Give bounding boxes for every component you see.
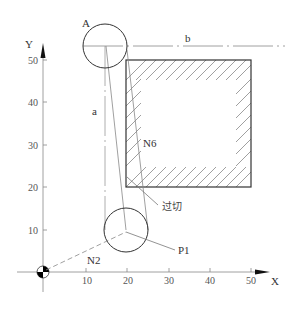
n2-dashed-line [46,232,126,270]
x-tick-10: 10 [82,275,92,286]
y-tick-10: 10 [28,225,38,236]
label-p1: P1 [178,244,190,256]
x-axis-arrow-icon [255,270,270,275]
y-axis-label: Y [25,38,33,50]
tool-path-line [106,46,126,230]
y-tick-20: 20 [28,182,38,193]
label-b: b [185,32,191,44]
label-overcut: 过切 [162,200,182,212]
y-tick-50: 50 [28,55,38,66]
x-axis-label: X [271,275,279,287]
x-tick-50: 50 [246,275,256,286]
y-tick-30: 30 [28,140,38,151]
label-a: a [92,105,97,117]
x-tick-20: 20 [123,275,133,286]
x-axis: 10 20 30 40 50 X [17,268,279,287]
y-tick-40: 40 [28,97,38,108]
p1-leader-line [126,232,175,250]
label-n2: N2 [87,254,100,266]
origin-symbol-icon [37,266,49,278]
label-n6: N6 [143,137,157,149]
x-tick-30: 30 [164,275,174,286]
y-axis-arrow-icon [41,43,46,58]
x-tick-40: 40 [205,275,215,286]
label-a-point: A [82,17,90,29]
workpiece-rectangle [126,60,256,187]
cnc-tool-path-diagram: Y 50 40 30 20 10 10 20 30 40 50 X [0,0,300,312]
y-axis: Y 50 40 30 20 10 [25,38,47,292]
